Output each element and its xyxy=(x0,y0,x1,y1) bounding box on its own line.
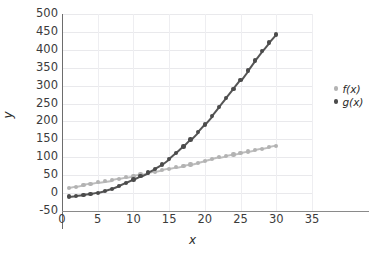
y-axis-title: y xyxy=(1,111,15,118)
data-point-f xyxy=(88,182,92,186)
chart-legend: f(x) g(x) xyxy=(334,82,363,108)
data-point-g xyxy=(181,144,185,148)
data-point-g xyxy=(231,87,235,91)
data-point-g xyxy=(167,157,171,161)
data-point-f xyxy=(103,179,107,183)
y-tick-label: 300 xyxy=(6,80,58,92)
data-point-f xyxy=(67,186,71,190)
gridline-vertical xyxy=(205,14,206,211)
data-point-g xyxy=(260,49,264,53)
data-point-f xyxy=(188,162,192,166)
gridline-horizontal xyxy=(62,121,312,122)
data-point-g xyxy=(160,162,164,166)
data-point-g xyxy=(131,177,135,181)
x-tick-label: 25 xyxy=(226,214,256,226)
y-tick-label: 350 xyxy=(6,62,58,74)
gridline-vertical xyxy=(169,14,170,211)
x-tick-label: 35 xyxy=(297,214,327,226)
gridline-horizontal xyxy=(62,175,312,176)
data-point-g xyxy=(246,68,250,72)
data-point-g xyxy=(267,40,271,44)
data-point-f xyxy=(181,164,185,168)
data-point-f xyxy=(203,159,207,163)
x-tick-label: 30 xyxy=(261,214,291,226)
y-tick-label: 150 xyxy=(6,133,58,145)
y-tick-label: 450 xyxy=(6,26,58,38)
data-point-f xyxy=(167,167,171,171)
data-point-f xyxy=(217,155,221,159)
y-tick-label: 100 xyxy=(6,151,58,163)
x-tick-label: 15 xyxy=(154,214,184,226)
y-tick-label: 0 xyxy=(6,187,58,199)
x-tick-label: 5 xyxy=(83,214,113,226)
data-point-f xyxy=(196,161,200,165)
gridline-horizontal xyxy=(62,50,312,51)
scatter-chart: 500450400350300250200150100500-50 051015… xyxy=(0,0,385,263)
plot-area xyxy=(62,14,312,211)
y-tick-label: 400 xyxy=(6,44,58,56)
data-point-f xyxy=(74,185,78,189)
legend-item-f[interactable]: f(x) xyxy=(334,82,363,95)
y-axis-line xyxy=(62,14,63,229)
data-point-g xyxy=(88,192,92,196)
x-axis-title: x xyxy=(0,233,385,247)
x-axis-line xyxy=(62,211,369,212)
gridline-vertical xyxy=(312,14,313,211)
data-point-f xyxy=(246,149,250,153)
data-point-g xyxy=(210,114,214,118)
x-tick-label: 20 xyxy=(190,214,220,226)
circle-marker-dark-icon xyxy=(334,99,338,103)
x-tick-label: 10 xyxy=(118,214,148,226)
data-point-f xyxy=(81,183,85,187)
data-point-f xyxy=(117,177,121,181)
data-point-f xyxy=(174,165,178,169)
gridline-horizontal xyxy=(62,86,312,87)
data-point-g xyxy=(217,105,221,109)
gridline-vertical xyxy=(241,14,242,211)
data-point-g xyxy=(138,174,142,178)
data-point-f xyxy=(253,148,257,152)
data-point-f xyxy=(210,157,214,161)
legend-label-f: f(x) xyxy=(342,83,360,95)
y-tick-label: 50 xyxy=(6,169,58,181)
data-point-f xyxy=(274,144,278,148)
circle-marker-light-icon xyxy=(334,86,338,90)
data-point-f xyxy=(260,147,264,151)
gridline-horizontal xyxy=(62,14,312,15)
gridline-vertical xyxy=(276,14,277,211)
data-point-g xyxy=(274,32,278,36)
data-point-g xyxy=(253,58,257,62)
data-point-f xyxy=(231,152,235,156)
legend-label-g: g(x) xyxy=(342,96,363,108)
data-point-f xyxy=(96,180,100,184)
data-point-f xyxy=(124,175,128,179)
data-point-g xyxy=(238,78,242,82)
data-point-g xyxy=(224,96,228,100)
data-point-f xyxy=(238,151,242,155)
data-point-g xyxy=(110,187,114,191)
data-point-f xyxy=(110,178,114,182)
y-tick-label: 500 xyxy=(6,8,58,20)
data-point-g xyxy=(203,122,207,126)
data-point-g xyxy=(146,170,150,174)
gridline-horizontal xyxy=(62,68,312,69)
legend-item-g[interactable]: g(x) xyxy=(334,95,363,108)
data-point-g xyxy=(81,193,85,197)
gridline-horizontal xyxy=(62,157,312,158)
data-point-g xyxy=(96,191,100,195)
y-tick-label: 250 xyxy=(6,98,58,110)
data-point-g xyxy=(153,167,157,171)
gridline-horizontal xyxy=(62,104,312,105)
data-point-g xyxy=(196,130,200,134)
data-point-g xyxy=(124,181,128,185)
x-tick-label: 0 xyxy=(47,214,77,226)
data-point-f xyxy=(160,168,164,172)
data-point-g xyxy=(74,194,78,198)
data-point-f xyxy=(267,145,271,149)
data-point-g xyxy=(188,137,192,141)
data-point-g xyxy=(174,151,178,155)
data-point-g xyxy=(67,194,71,198)
data-point-g xyxy=(117,184,121,188)
